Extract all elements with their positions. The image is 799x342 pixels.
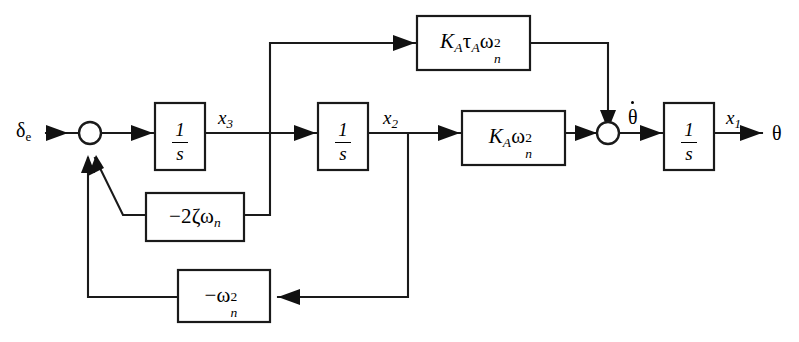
arrowhead-position-gain-in xyxy=(278,289,300,305)
signal-label-x2: x2 xyxy=(383,108,398,130)
integrator1-denominator: s xyxy=(681,142,697,165)
ka-tau-omega-sup: 2 xyxy=(494,36,501,50)
arrowhead-output xyxy=(740,125,762,141)
ka-tau-k: K xyxy=(440,29,454,53)
diagram-canvas xyxy=(0,0,799,342)
signal-label-x1: x1 xyxy=(726,108,741,130)
summing-junction-rate xyxy=(597,122,619,144)
block-label-gain-ka-tau-wn2: KAτAω2n xyxy=(417,31,530,55)
arrowhead-input xyxy=(46,125,68,141)
pos-gain-sign: − xyxy=(204,283,216,307)
block-label-integrator-2: 1s xyxy=(318,120,368,164)
pos-gain-omega: ω xyxy=(217,283,231,307)
block-diagram: δe x3 x2 θ x1 θ 1s 1s 1s KAτAω2n KAω2n −… xyxy=(0,0,799,342)
output-label: θ xyxy=(772,123,782,143)
ka-tau-tau-sub: A xyxy=(471,40,479,55)
rate-gain-omega: ω xyxy=(200,204,214,228)
block-label-integrator-1: 1s xyxy=(664,120,714,164)
ka-omega-sub: n xyxy=(525,147,532,161)
integrator3-denominator: s xyxy=(172,142,188,165)
wire-topgain-to-sum-rate xyxy=(530,43,608,110)
ka-omega: ω xyxy=(511,124,525,148)
rate-gain-sign: − xyxy=(169,204,181,228)
input-label: δe xyxy=(16,120,31,143)
arrowhead-gain-in xyxy=(438,125,460,141)
block-label-gain-minus-2-zeta-wn: −2ζωn xyxy=(146,206,244,230)
integrator3-numerator: 1 xyxy=(172,120,188,142)
arrowhead-integrator2-in xyxy=(294,125,316,141)
pos-gain-omega-sub: n xyxy=(231,306,238,320)
arrowhead-integrator1-in xyxy=(640,125,662,141)
summing-junction-input xyxy=(79,122,101,144)
integrator1-numerator: 1 xyxy=(681,120,697,142)
signal-label-x3: x3 xyxy=(218,108,233,130)
block-label-integrator-3: 1s xyxy=(155,120,205,164)
rate-gain-zeta: ζ xyxy=(192,204,200,228)
integrator2-denominator: s xyxy=(335,142,351,165)
arrowhead-topgain-in xyxy=(393,35,415,51)
rate-gain-omega-sub: n xyxy=(214,215,221,230)
ka-tau-k-sub: A xyxy=(454,40,462,55)
ka-k: K xyxy=(489,124,503,148)
block-label-gain-minus-wn2: −ω2n xyxy=(178,285,270,306)
integrator2-numerator: 1 xyxy=(335,120,351,142)
signal-label-theta-dot: θ xyxy=(628,107,638,127)
pos-gain-omega-sup: 2 xyxy=(231,290,238,304)
block-label-gain-ka-wn2: KAω2n xyxy=(462,126,565,150)
rate-gain-coeff: 2 xyxy=(181,204,192,228)
arrowhead-integrator3-in xyxy=(131,125,153,141)
ka-tau-omega: ω xyxy=(480,29,494,53)
ka-omega-sup: 2 xyxy=(525,131,532,145)
arrowhead-sum-rate-in-left xyxy=(575,125,597,141)
ka-tau-omega-sub: n xyxy=(494,52,501,66)
